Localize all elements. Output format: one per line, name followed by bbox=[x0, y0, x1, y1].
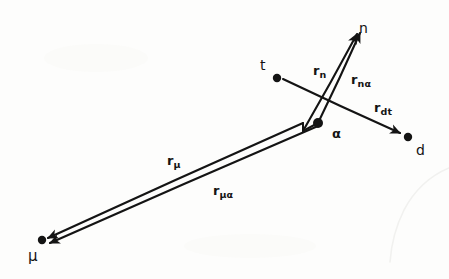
point-dot-mu bbox=[38, 236, 46, 244]
point-label-alpha: α bbox=[332, 127, 341, 140]
point-label-t: t bbox=[260, 58, 266, 72]
vector-label-r_nalpha: rnα bbox=[351, 71, 371, 89]
vector-label-subscript: μ bbox=[173, 159, 180, 170]
point-dot-alpha bbox=[313, 118, 323, 128]
vector-label-r_mu: rμ bbox=[167, 152, 181, 170]
scan-artifact-smudge-bottom bbox=[184, 234, 316, 258]
scan-artifact-smudge-top bbox=[44, 44, 148, 72]
vector-label-r_mualpha: rμα bbox=[213, 182, 233, 200]
point-dot-d bbox=[404, 133, 412, 141]
vector-label-r_dt: rdt bbox=[374, 99, 392, 117]
diagram-canvas bbox=[0, 0, 449, 279]
vector-label-subscript: n bbox=[319, 69, 326, 80]
vector-label-subscript: μα bbox=[219, 189, 233, 200]
point-label-d: d bbox=[416, 143, 425, 157]
vector-diagram-figure: rnrnαrdtrμrμα ntαdμ bbox=[0, 0, 449, 279]
vector-label-r_n: rn bbox=[313, 62, 326, 80]
vector-label-subscript: nα bbox=[357, 78, 371, 89]
point-dot-t bbox=[273, 74, 281, 82]
point-label-mu: μ bbox=[28, 249, 38, 264]
point-label-n: n bbox=[359, 21, 368, 35]
vector-label-subscript: dt bbox=[380, 106, 392, 117]
